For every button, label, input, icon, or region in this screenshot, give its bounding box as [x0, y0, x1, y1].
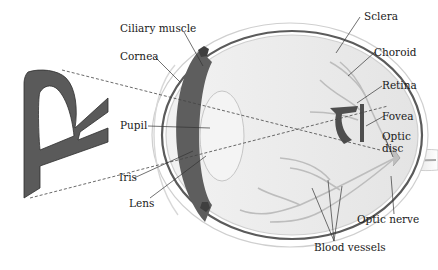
label-lens: Lens — [129, 198, 154, 209]
label-optic-nerve: Optic nerve — [357, 214, 419, 225]
label-iris: Iris — [119, 172, 137, 183]
label-ciliary-muscle: Ciliary muscle — [120, 23, 196, 34]
label-blood-vessels: Blood vessels — [314, 242, 386, 253]
eye-illustration — [0, 0, 438, 270]
label-retina: Retina — [382, 80, 417, 91]
stimulus-letter-r — [24, 70, 108, 198]
label-choroid: Choroid — [374, 47, 417, 58]
label-pupil: Pupil — [120, 120, 147, 131]
label-sclera: Sclera — [364, 11, 398, 22]
eye-diagram: Ciliary muscle Cornea Pupil Iris Lens Sc… — [0, 0, 438, 270]
lens-shape — [200, 91, 244, 181]
label-fovea: Fovea — [382, 111, 413, 122]
label-optic-disc-line1: Optic — [382, 131, 411, 142]
label-cornea: Cornea — [120, 51, 159, 62]
label-optic-disc-line2: disc — [382, 143, 403, 154]
